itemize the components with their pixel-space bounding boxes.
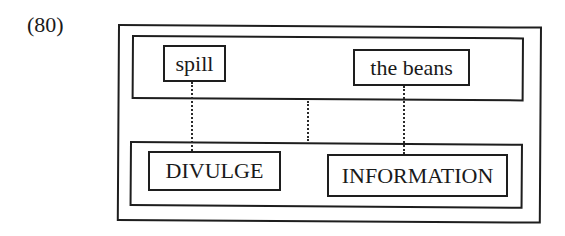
concept-label: INFORMATION [342, 165, 494, 187]
concept-box-divulge: DIVULGE [148, 151, 281, 191]
concept-box-information: INFORMATION [327, 154, 508, 197]
dotted-connector-layers [307, 101, 309, 141]
word-label: spill [176, 53, 214, 75]
dotted-connector-beans-information [403, 86, 405, 154]
word-box-the-beans: the beans [353, 49, 470, 86]
dotted-connector-spill-divulge [191, 82, 193, 151]
example-number: (80) [27, 12, 64, 38]
concept-label: DIVULGE [166, 160, 264, 182]
word-label: the beans [370, 57, 452, 79]
word-box-spill: spill [163, 45, 226, 82]
